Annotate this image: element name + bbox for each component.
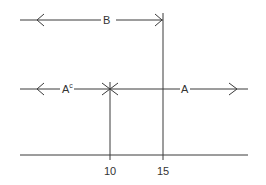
label-a-complement: Ac (62, 82, 73, 95)
tick-label-10: 10 (104, 165, 116, 177)
number-line-diagram: B Ac A 10 15 (0, 0, 266, 185)
tick-label-15: 15 (157, 165, 169, 177)
label-a: A (181, 83, 189, 95)
label-b: B (103, 14, 110, 26)
